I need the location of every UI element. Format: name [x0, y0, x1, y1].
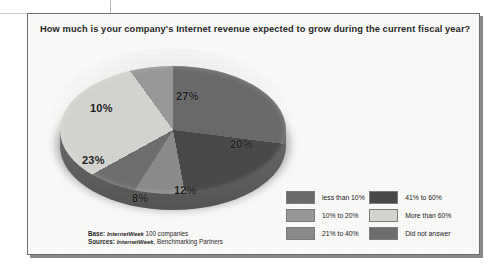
- pie-slice-label: 23%: [82, 154, 105, 166]
- chart-page: How much is your company's Internet reve…: [0, 0, 501, 273]
- pie-slice-label: 12%: [174, 184, 197, 196]
- legend-label: Did not answer: [405, 230, 450, 237]
- pie-slices: [60, 66, 286, 194]
- legend-color-swatch: [369, 227, 398, 240]
- source-note: Base: InternetWeek 100 companies Sources…: [88, 230, 223, 247]
- legend-label: 41% to 60%: [405, 194, 442, 201]
- legend-color-swatch: [369, 209, 398, 222]
- source-sources-line: Sources: InternetWeek, Benchmarking Part…: [88, 238, 223, 246]
- pie-chart: 27%20%12%8%23%10%: [38, 42, 308, 217]
- legend-color-swatch: [286, 191, 315, 204]
- registration-rule-horizontal: [0, 13, 30, 14]
- sources-publication: InternetWeek: [117, 239, 154, 245]
- legend-column-right: 41% to 60%More than 60%Did not answer: [369, 189, 451, 243]
- legend-item[interactable]: less than 10%: [286, 189, 365, 206]
- legend-color-swatch: [369, 191, 398, 204]
- pie-top-face: [60, 66, 286, 194]
- chart-legend: less than 10%10% to 20%21% to 40% 41% to…: [286, 189, 472, 243]
- sources-rest: , Benchmarking Partners: [154, 238, 223, 245]
- pie-slice-label: 20%: [230, 138, 253, 150]
- legend-label: less than 10%: [322, 194, 365, 201]
- pie-slice-label: 8%: [132, 192, 148, 204]
- base-label: Base:: [88, 230, 105, 237]
- legend-column-left: less than 10%10% to 20%21% to 40%: [286, 189, 365, 243]
- chart-title: How much is your company's Internet reve…: [40, 24, 470, 35]
- source-base-line: Base: InternetWeek 100 companies: [88, 230, 223, 238]
- legend-label: 21% to 40%: [322, 230, 359, 237]
- legend-color-swatch: [286, 227, 315, 240]
- base-rest: 100 companies: [146, 230, 189, 237]
- pie-slice-label: 27%: [176, 90, 199, 102]
- chart-frame: How much is your company's Internet reve…: [27, 13, 480, 255]
- legend-item[interactable]: 41% to 60%: [369, 189, 451, 206]
- legend-item[interactable]: Did not answer: [369, 225, 451, 242]
- legend-color-swatch: [286, 209, 315, 222]
- pie-slice-label: 10%: [90, 102, 113, 114]
- sources-label: Sources:: [88, 238, 115, 245]
- base-publication: InternetWeek: [107, 231, 144, 237]
- legend-label: More than 60%: [405, 212, 451, 219]
- legend-item[interactable]: More than 60%: [369, 207, 451, 224]
- legend-label: 10% to 20%: [322, 212, 359, 219]
- legend-item[interactable]: 10% to 20%: [286, 207, 365, 224]
- registration-rule-vertical: [110, 0, 111, 14]
- legend-item[interactable]: 21% to 40%: [286, 225, 365, 242]
